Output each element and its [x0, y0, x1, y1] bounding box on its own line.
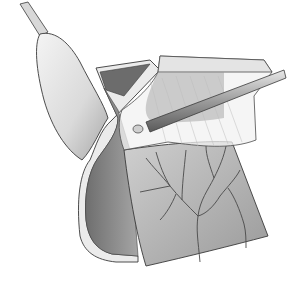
illustration-canvas [0, 0, 295, 288]
probe-tip [133, 125, 143, 133]
tissue-flap [124, 142, 268, 266]
medical-illustration [0, 0, 295, 288]
duct [20, 2, 48, 36]
